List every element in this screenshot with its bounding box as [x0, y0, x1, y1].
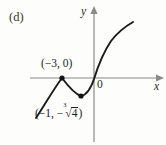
y-axis-label: y: [81, 6, 86, 18]
local-maximum-point-marker: [59, 75, 64, 80]
origin-label: 0: [97, 79, 103, 91]
radicand: 4: [71, 107, 79, 120]
x-axis-label: x: [154, 81, 159, 93]
local-minimum-point-marker: [78, 93, 83, 98]
graph-plot-area: [0, 0, 166, 145]
local-minimum-point-label: (−1, −3√4): [35, 107, 82, 120]
local-maximum-point-label: (−3, 0): [41, 58, 72, 70]
radical-index: 3: [63, 102, 66, 109]
cube-root-radical: 3√4: [63, 107, 78, 120]
figure-panel-d: (d) y x 0 (−3, 0) (−1, −3√4): [0, 0, 166, 145]
min-label-suffix: ): [78, 107, 82, 119]
y-axis-arrow-up-icon: [90, 6, 97, 14]
min-label-prefix: (−1, −: [35, 107, 63, 119]
function-curve: [36, 22, 133, 118]
